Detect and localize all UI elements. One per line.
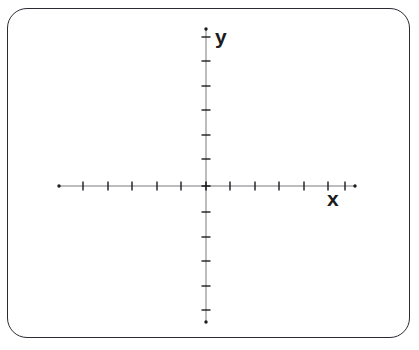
y-axis-endpoint-bottom <box>204 320 207 323</box>
x-axis-endpoint-left <box>57 184 60 187</box>
y-axis-endpoint-top <box>204 27 207 30</box>
coordinate-axes-canvas <box>0 0 419 350</box>
origin-marker <box>202 182 211 191</box>
x-axis-endpoint-right <box>353 184 356 187</box>
x-axis-label: x <box>327 188 339 209</box>
axes-svg <box>0 0 419 350</box>
coordinate-plane-figure: y x <box>0 0 419 350</box>
y-axis <box>202 27 211 323</box>
y-axis-label: y <box>215 26 227 47</box>
